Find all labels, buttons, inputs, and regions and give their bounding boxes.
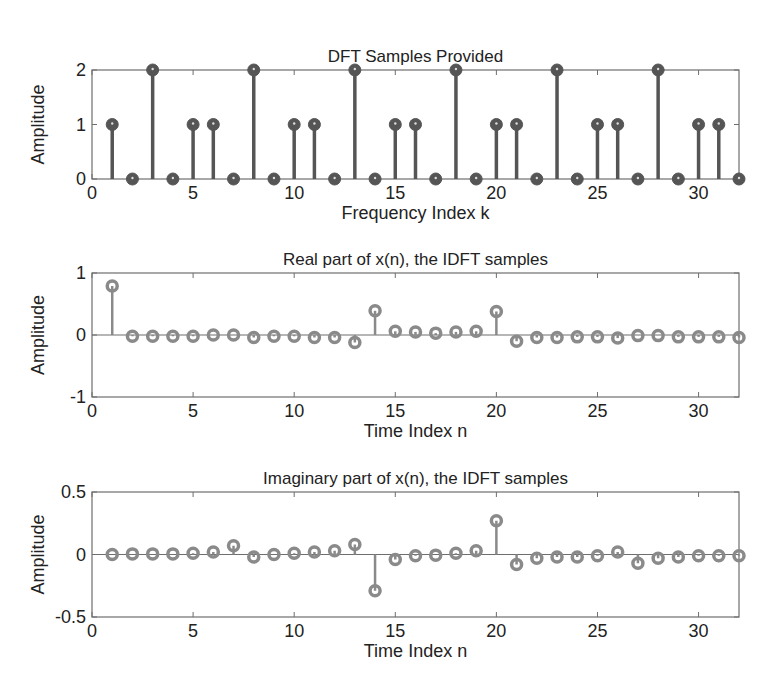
y-tick-label: 1: [76, 263, 86, 283]
stem-marker-highlight: [515, 122, 517, 124]
stem-marker-highlight: [273, 177, 275, 179]
x-tick-label: 10: [284, 621, 304, 641]
stem-sample: [127, 549, 137, 559]
figure: DFT Samples Provided051015202530012Frequ…: [0, 0, 778, 699]
y-tick-label: 0: [76, 169, 86, 189]
stem-sample: [592, 551, 602, 561]
stem-sample: [148, 549, 158, 559]
stem-sample: [491, 516, 501, 555]
x-tick-label: 10: [284, 183, 304, 203]
stem-sample: [532, 332, 542, 342]
stem-sample: [471, 546, 481, 556]
y-axis-label: Amplitude: [28, 84, 48, 164]
stem-sample: [168, 549, 178, 559]
stem-sample: [431, 328, 441, 338]
stem-sample: [268, 173, 280, 185]
x-tick-label: 15: [385, 183, 405, 203]
x-tick-label: 25: [587, 401, 607, 421]
stem-sample: [410, 119, 422, 180]
stem-sample: [147, 64, 159, 179]
stem-marker-highlight: [394, 122, 396, 124]
stem-sample: [451, 327, 461, 337]
stem-sample: [673, 552, 683, 562]
y-axis-label: Amplitude: [28, 295, 48, 375]
stem-sample: [369, 173, 381, 185]
x-tick-label: 20: [486, 401, 506, 421]
stem-sample: [633, 555, 643, 569]
stem-sample: [451, 548, 461, 558]
stem-sample: [349, 64, 361, 179]
stem-sample: [653, 553, 663, 563]
stem-sample: [249, 332, 259, 342]
stem-sample: [229, 541, 239, 555]
stem-marker-highlight: [475, 177, 477, 179]
stem-marker-highlight: [354, 68, 356, 70]
stem-sample: [269, 331, 279, 341]
stem-sample: [571, 173, 583, 185]
stem-marker: [148, 549, 158, 559]
x-tick-label: 20: [486, 621, 506, 641]
stem-marker-highlight: [738, 177, 740, 179]
stem-sample: [734, 551, 744, 561]
x-tick-label: 5: [188, 401, 198, 421]
stem-sample: [329, 173, 341, 185]
stem-sample: [350, 335, 360, 347]
stem-sample: [450, 64, 462, 179]
x-axis-label: Time Index n: [364, 641, 467, 661]
stem-sample: [411, 327, 421, 337]
figure-canvas: DFT Samples Provided051015202530012Frequ…: [0, 0, 778, 699]
stem-sample: [633, 331, 643, 341]
stem-marker: [431, 550, 441, 560]
x-tick-label: 25: [587, 621, 607, 641]
stem-sample: [188, 548, 198, 558]
stem-sample: [672, 173, 684, 185]
stem-sample: [430, 173, 442, 185]
real-part-panel: Real part of x(n), the IDFT samples05101…: [28, 250, 744, 441]
stem-marker-highlight: [414, 122, 416, 124]
stem-sample: [350, 540, 360, 555]
stem-sample: [733, 173, 745, 185]
stem-marker-highlight: [435, 177, 437, 179]
stem-sample: [207, 119, 219, 180]
stem-sample: [471, 326, 481, 336]
stem-sample: [653, 331, 663, 341]
y-tick-label: -0.5: [55, 607, 86, 627]
dft-samples-panel: DFT Samples Provided051015202530012Frequ…: [28, 47, 745, 223]
stem-sample: [613, 547, 623, 557]
stem-marker-highlight: [637, 177, 639, 179]
stem-sample: [572, 552, 582, 562]
stem-sample: [613, 333, 623, 343]
stem-marker-highlight: [232, 177, 234, 179]
stem-sample: [106, 119, 118, 180]
stem-sample: [490, 119, 502, 180]
stem-sample: [309, 332, 319, 342]
x-tick-label: 5: [188, 183, 198, 203]
stem-sample: [208, 547, 218, 557]
stem-sample: [390, 326, 400, 336]
y-tick-label: 2: [76, 60, 86, 80]
stem-marker-highlight: [697, 122, 699, 124]
stem-sample: [167, 173, 179, 185]
stem-marker: [633, 331, 643, 341]
x-tick-label: 15: [385, 401, 405, 421]
stem-marker-highlight: [293, 122, 295, 124]
stem-marker-highlight: [616, 122, 618, 124]
stem-sample: [552, 552, 562, 562]
stem-sample: [187, 119, 199, 180]
stem-sample: [248, 64, 260, 179]
stem-marker-highlight: [172, 177, 174, 179]
stem-sample: [390, 555, 400, 565]
stem-sample: [330, 546, 340, 556]
stem-sample: [127, 331, 137, 341]
stem-sample: [693, 119, 705, 180]
stem-marker-highlight: [131, 177, 133, 179]
stem-marker-highlight: [677, 177, 679, 179]
x-axis-label: Frequency Index k: [341, 203, 490, 223]
stem-sample: [714, 332, 724, 342]
y-tick-label: 0.5: [61, 482, 86, 502]
x-tick-label: 30: [689, 401, 709, 421]
x-tick-label: 20: [486, 183, 506, 203]
stem-marker: [653, 331, 663, 341]
stem-sample: [288, 119, 300, 180]
stem-sample: [470, 173, 482, 185]
